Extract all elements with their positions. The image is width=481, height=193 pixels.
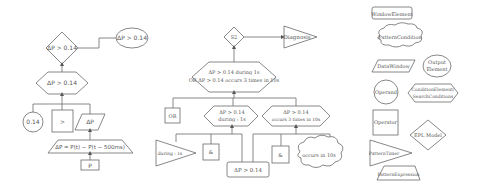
sub-hexagon-occurs[interactable]: ΔP > 0.14 occurs 3 times in 10s bbox=[262, 106, 330, 126]
legend-window-element: WindowElement bbox=[371, 7, 413, 19]
legend-label-line2: SearchConditions bbox=[413, 94, 454, 99]
sub-hexagon-during[interactable]: ΔP > 0.14 during : 1s bbox=[204, 106, 258, 126]
sub-hexagon-right-line1: ΔP > 0.14 bbox=[283, 109, 308, 115]
cloud-condition[interactable]: occurs in 10s bbox=[298, 135, 343, 167]
operator-box-label: > bbox=[60, 118, 65, 125]
legend-pattern-condition: PatternCondition bbox=[378, 23, 423, 47]
legend-operand: Operand bbox=[374, 80, 398, 104]
input-box[interactable]: P bbox=[81, 160, 99, 170]
expression-trapezoid[interactable]: ΔP = P(t) − P(t − 500ms) bbox=[48, 140, 133, 153]
shared-condition-box[interactable]: ΔP > 0.14 bbox=[227, 162, 269, 177]
legend-label-line1: ConditionElement/ bbox=[412, 87, 455, 92]
and-box-left[interactable]: & bbox=[203, 144, 219, 160]
and-box-left-label: & bbox=[209, 149, 214, 155]
operand-circle-label: 0.14 bbox=[26, 118, 40, 125]
timer-triangle-label: during : 1s bbox=[158, 151, 183, 156]
middle-diagram: S2 Diagnosis ΔP > 0.14 during 1s OR ΔP >… bbox=[156, 26, 343, 177]
window-parallelogram[interactable]: ΔP bbox=[75, 114, 105, 130]
legend-label: PatternTimer bbox=[369, 151, 400, 156]
legend-pattern-expression: PatternExpression bbox=[377, 166, 420, 180]
legend: WindowElement PatternCondition DataWindo… bbox=[369, 7, 458, 180]
window-parallelogram-label: ΔP bbox=[86, 118, 94, 125]
operator-box[interactable]: > bbox=[52, 110, 73, 132]
main-hexagon-line2: OR ΔP > 0.14 occurs 3 times in 10s bbox=[189, 77, 280, 83]
sub-hexagon-left-line2: during : 1s bbox=[218, 116, 246, 123]
legend-label: Operator bbox=[374, 119, 398, 126]
decision-diamond-label: ΔP > 0.14 bbox=[47, 44, 77, 51]
legend-label: EPL Model bbox=[414, 132, 442, 138]
model-diamond[interactable]: S2 bbox=[224, 27, 244, 47]
epl-model-diagram: ΔP > 0.14 ΔP > 0.14 ΔP > 0.14 0.14 > bbox=[0, 0, 481, 193]
legend-epl-model: EPL Model bbox=[410, 120, 446, 150]
legend-label-line1: Output bbox=[428, 59, 446, 66]
legend-output-element: Output Element bbox=[423, 55, 451, 77]
or-box[interactable]: OR bbox=[165, 108, 180, 123]
cloud-condition-label: occurs in 10s bbox=[302, 152, 336, 158]
legend-pattern-timer: PatternTimer bbox=[369, 140, 412, 166]
main-condition-hexagon[interactable]: ΔP > 0.14 during 1s OR ΔP > 0.14 occurs … bbox=[189, 62, 280, 92]
expression-trapezoid-label: ΔP = P(t) − P(t − 500ms) bbox=[55, 144, 125, 150]
main-hexagon-line1: ΔP > 0.14 during 1s bbox=[208, 69, 260, 76]
and-box-right[interactable]: & bbox=[272, 146, 289, 163]
output-ellipse[interactable]: ΔP > 0.14 bbox=[116, 28, 148, 48]
legend-data-window: DataWindow bbox=[372, 60, 415, 72]
model-diamond-label: S2 bbox=[231, 34, 238, 40]
input-box-label: P bbox=[88, 162, 92, 169]
legend-label: PatternExpression bbox=[377, 172, 419, 177]
legend-label: WindowElement bbox=[371, 11, 413, 17]
or-box-label: OR bbox=[169, 113, 177, 119]
condition-hexagon-label: ΔP > 0.14 bbox=[47, 79, 77, 86]
shared-condition-box-label: ΔP > 0.14 bbox=[234, 167, 263, 173]
timer-triangle[interactable]: during : 1s bbox=[156, 140, 196, 166]
and-box-right-label: & bbox=[278, 152, 283, 158]
legend-label: Operand bbox=[375, 89, 398, 96]
output-triangle-label: Diagnosis bbox=[283, 34, 310, 41]
operand-circle[interactable]: 0.14 bbox=[23, 112, 43, 132]
legend-label: DataWindow bbox=[377, 63, 410, 69]
legend-operator: Operator bbox=[373, 110, 398, 135]
sub-hexagon-left-line1: ΔP > 0.14 bbox=[219, 109, 244, 115]
condition-hexagon[interactable]: ΔP > 0.14 bbox=[36, 72, 88, 94]
output-triangle[interactable]: Diagnosis bbox=[283, 26, 317, 48]
legend-label: PatternCondition bbox=[378, 34, 422, 40]
decision-diamond[interactable]: ΔP > 0.14 bbox=[46, 32, 78, 64]
legend-condition-element: ConditionElement/ SearchConditions bbox=[408, 84, 458, 102]
output-ellipse-label: ΔP > 0.14 bbox=[117, 34, 147, 41]
sub-hexagon-right-line2: occurs 3 times in 10s bbox=[272, 117, 321, 122]
left-diagram: ΔP > 0.14 ΔP > 0.14 ΔP > 0.14 0.14 > bbox=[23, 28, 148, 170]
legend-label-line2: Element bbox=[426, 66, 447, 72]
